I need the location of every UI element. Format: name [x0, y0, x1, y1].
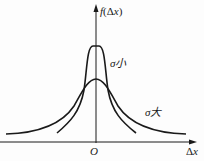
chart-canvas: [0, 0, 204, 161]
small-sigma-label: σ小: [110, 58, 126, 69]
x-axis-arrow-icon: [189, 140, 197, 145]
x-axis-label: Δx: [186, 146, 198, 157]
y-axis-arrow-icon: [94, 4, 99, 12]
y-axis-label: f(Δx): [100, 6, 122, 17]
origin-label: O: [90, 146, 98, 157]
normal-distribution-figure: f(Δx) σ小 σ大 O Δx: [0, 0, 204, 161]
large-sigma-label: σ大: [145, 107, 161, 118]
